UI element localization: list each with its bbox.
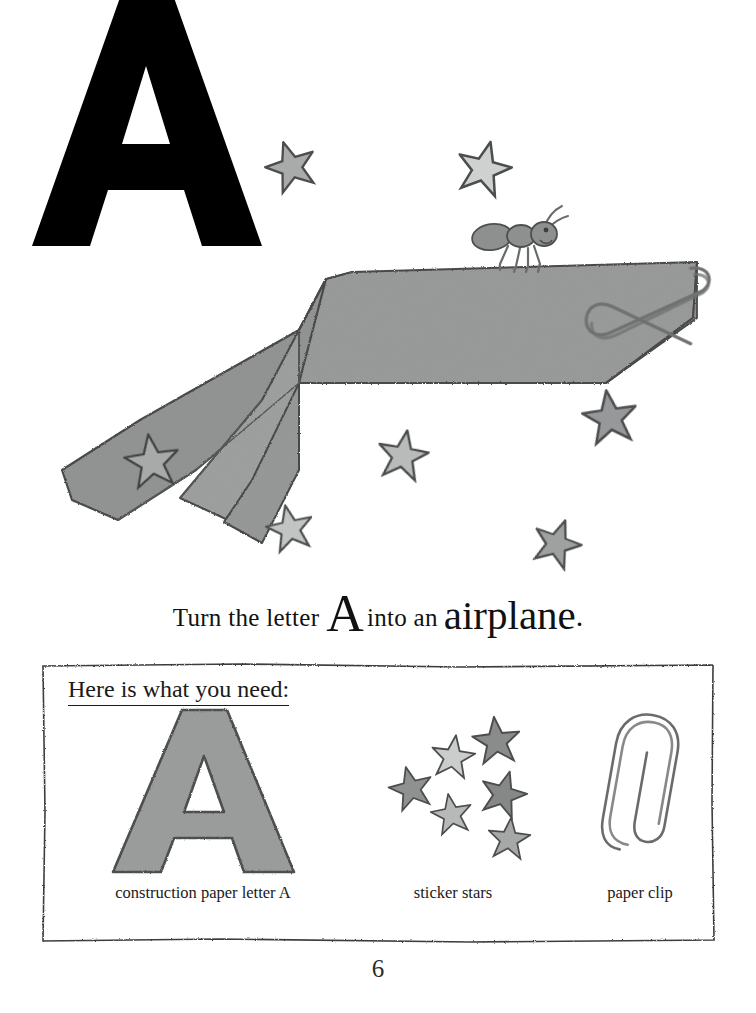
star-icon [452, 135, 517, 198]
supply-item-sticker-stars: sticker stars [328, 704, 578, 903]
star-icon [476, 765, 532, 820]
star-icon [471, 715, 522, 765]
caption-part2: into an [367, 604, 438, 631]
letter-a-cutout-icon [108, 704, 298, 879]
caption-line: Turn the letterAinto anairplane. [0, 588, 756, 636]
supply-item-letter-a: construction paper letter A [58, 704, 348, 903]
page-number: 6 [0, 955, 756, 983]
star-icon [260, 135, 322, 196]
star-icon [429, 732, 477, 779]
caption-word: airplane [438, 592, 576, 638]
supply-label-sticker-stars: sticker stars [328, 883, 578, 903]
supplies-box: Here is what you need: construction pape… [40, 662, 716, 944]
paper-clip-icon [600, 704, 680, 879]
supply-label-letter-a: construction paper letter A [58, 883, 348, 903]
supply-item-paper-clip: paper clip [560, 704, 720, 903]
star-cluster-icon [348, 704, 558, 879]
book-page: Turn the letterAinto anairplane. Here is… [0, 0, 756, 1013]
ant-icon [470, 206, 568, 272]
supplies-heading: Here is what you need: [68, 676, 289, 706]
star-icon [486, 816, 532, 860]
supply-label-paper-clip: paper clip [560, 883, 720, 903]
star-icon [527, 512, 588, 572]
star-icon [374, 426, 431, 482]
caption-period: . [576, 599, 584, 632]
caption-part1: Turn the letter [173, 604, 320, 631]
star-icon [385, 762, 437, 812]
caption-letter: A [319, 585, 367, 642]
star-icon [428, 791, 474, 836]
airplane-illustration [0, 0, 756, 600]
star-icon [580, 387, 640, 446]
